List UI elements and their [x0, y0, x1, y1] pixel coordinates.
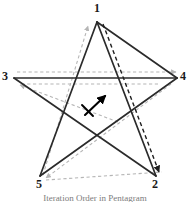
- pentagram-canvas: [0, 0, 190, 202]
- pentagram-figure: 1 2 3 4 5 Iteration Order in Pentagram: [0, 0, 190, 202]
- vertex-label-1: 1: [94, 2, 100, 14]
- vertex-label-5: 5: [36, 178, 42, 190]
- vertex-label-4: 4: [180, 70, 186, 82]
- center-arrow-tail-cross: [82, 105, 93, 116]
- gray-dashed-to-1: [43, 26, 88, 175]
- edge-2-to-3: [14, 78, 156, 176]
- figure-caption: Iteration Order in Pentagram: [0, 193, 190, 202]
- star-solid-layer: [14, 22, 177, 176]
- vertex-label-2: 2: [152, 178, 158, 190]
- gray-dashed-lower: [46, 172, 162, 180]
- vertex-label-3: 3: [2, 70, 8, 82]
- edge-4-to-5: [40, 78, 177, 176]
- edge-1-to-4: [97, 22, 177, 78]
- edge-5-to-1: [40, 22, 97, 176]
